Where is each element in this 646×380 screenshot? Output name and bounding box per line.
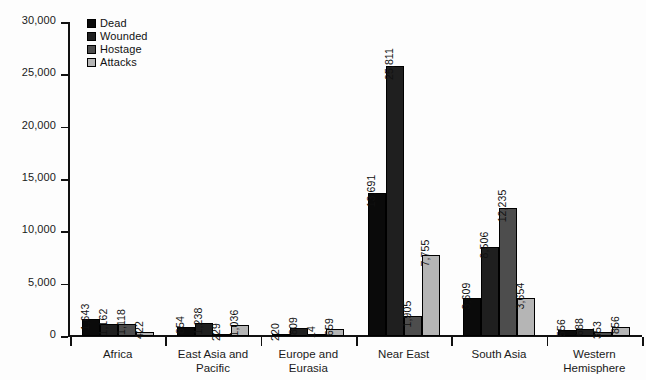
- y-axis-tick-label: 15,000: [22, 171, 56, 183]
- bar-chart: 05,00010,00015,00020,00025,00030,000 1,6…: [0, 0, 646, 380]
- bar-group: 22080914659: [261, 22, 356, 336]
- y-axis-tick-mark: [61, 74, 68, 76]
- bar[interactable]: 422: [136, 332, 154, 336]
- bar-slot: 3,654: [517, 22, 535, 336]
- bar-slot: 854: [177, 22, 195, 336]
- bar[interactable]: 12,235: [499, 208, 517, 336]
- bar[interactable]: 25,811: [386, 66, 404, 336]
- legend-item[interactable]: Hostage: [87, 43, 148, 55]
- bar-value-label: 7,755: [419, 239, 431, 266]
- bar-slot: 809: [290, 22, 308, 336]
- bar-value-label: 1,036: [228, 310, 240, 337]
- bar[interactable]: 7,755: [422, 255, 440, 336]
- y-axis-tick-mark: [61, 231, 68, 233]
- bar-slot: 353: [594, 22, 612, 336]
- bar-value-label: 422: [133, 321, 145, 339]
- bar-value-label: 12,235: [496, 190, 508, 223]
- bar-slot: 25,811: [386, 22, 404, 336]
- y-axis-tick-label: 5,000: [28, 276, 56, 288]
- y-axis-tick-label: 20,000: [22, 119, 56, 131]
- bar-value-label: 1,905: [401, 301, 413, 328]
- bar[interactable]: 13,691: [368, 193, 386, 336]
- bar-value-label: 14: [305, 326, 317, 338]
- bar[interactable]: 3,609: [463, 298, 481, 336]
- legend-swatch-icon: [87, 45, 96, 54]
- bar-slot: 556: [558, 22, 576, 336]
- y-axis-tick-label: 30,000: [22, 14, 56, 26]
- bar-group: 1,6431,1621,118422: [70, 22, 165, 336]
- y-axis-tick-mark: [61, 336, 68, 338]
- x-axis-category-label: South Asia: [451, 348, 546, 362]
- bar-value-label: 1,643: [79, 303, 91, 330]
- x-axis-category-label: Near East: [356, 348, 451, 362]
- x-axis-separator: [642, 337, 644, 346]
- bar-slot: 14: [308, 22, 326, 336]
- bar-value-label: 688: [573, 318, 585, 336]
- bar-value-label: 1,162: [97, 308, 109, 335]
- y-axis-tick-label: 0: [50, 328, 56, 340]
- bar-value-label: 1,118: [115, 309, 127, 335]
- bar-value-label: 1,238: [192, 308, 204, 335]
- x-axis-category-label: Europe and Eurasia: [261, 348, 356, 375]
- bar-slot: 229: [213, 22, 231, 336]
- bar[interactable]: 856: [612, 327, 630, 336]
- legend-swatch-icon: [87, 19, 96, 28]
- x-axis-category-label: Western Hemisphere: [547, 348, 642, 375]
- bar-slot: 659: [326, 22, 344, 336]
- bar-value-label: 3,609: [460, 283, 472, 310]
- bar[interactable]: 659: [326, 329, 344, 336]
- x-axis-separator: [547, 337, 549, 346]
- y-axis-tick-mark: [61, 179, 68, 181]
- legend-item[interactable]: Wounded: [87, 30, 148, 42]
- y-axis-tick-label: 25,000: [22, 66, 56, 78]
- bar-value-label: 659: [323, 318, 335, 336]
- y-axis-tick-mark: [61, 127, 68, 129]
- y-axis-tick-mark: [61, 284, 68, 286]
- bar[interactable]: 8,506: [481, 247, 499, 336]
- bar-group: 13,69125,8111,9057,755: [356, 22, 451, 336]
- bar-slot: 1,036: [231, 22, 249, 336]
- x-axis-separator: [451, 337, 453, 346]
- bar-value-label: 809: [287, 317, 299, 335]
- bar[interactable]: 1,905: [404, 316, 422, 336]
- legend-item[interactable]: Attacks: [87, 56, 148, 68]
- bar-slot: 1,118: [118, 22, 136, 336]
- bar-slot: 1,162: [100, 22, 118, 336]
- legend-swatch-icon: [87, 32, 96, 41]
- y-axis-tick-mark: [61, 22, 68, 24]
- bar-group: 8541,2382291,036: [165, 22, 260, 336]
- bar-slot: 1,643: [82, 22, 100, 336]
- bar-slot: 422: [136, 22, 154, 336]
- legend-swatch-icon: [87, 58, 96, 67]
- bar-group: 556688353856: [547, 22, 642, 336]
- bar-value-label: 229: [210, 323, 222, 341]
- bar-value-label: 856: [609, 316, 621, 334]
- bar-slot: 220: [272, 22, 290, 336]
- bar-value-label: 854: [174, 316, 186, 334]
- bar-value-label: 353: [591, 321, 603, 339]
- legend-item[interactable]: Dead: [87, 17, 148, 29]
- bar-slot: 3,609: [463, 22, 481, 336]
- bar-value-label: 8,506: [478, 232, 490, 259]
- chart-legend: DeadWoundedHostageAttacks: [87, 17, 148, 69]
- bar-value-label: 220: [269, 323, 281, 341]
- x-axis-category-label: Africa: [70, 348, 165, 362]
- bar-value-label: 25,811: [383, 48, 395, 80]
- legend-label: Dead: [100, 17, 127, 29]
- bar-value-label: 3,654: [514, 282, 526, 309]
- bar-value-label: 556: [555, 319, 567, 337]
- plot-area: 1,6431,1621,1184228541,2382291,036220809…: [70, 22, 642, 336]
- bar-slot: 1,238: [195, 22, 213, 336]
- legend-label: Attacks: [100, 56, 137, 68]
- x-axis-category-label: East Asia and Pacific: [165, 348, 260, 375]
- bar[interactable]: 1,036: [231, 325, 249, 336]
- bar-value-label: 13,691: [365, 174, 377, 207]
- x-axis-separator: [261, 337, 263, 346]
- bar-group: 3,6098,50612,2353,654: [451, 22, 546, 336]
- x-axis-separator: [70, 337, 72, 346]
- bar-slot: 688: [576, 22, 594, 336]
- bar-slot: 8,506: [481, 22, 499, 336]
- bar[interactable]: 3,654: [517, 298, 535, 336]
- legend-label: Wounded: [100, 30, 148, 42]
- y-axis-tick-label: 10,000: [22, 223, 56, 235]
